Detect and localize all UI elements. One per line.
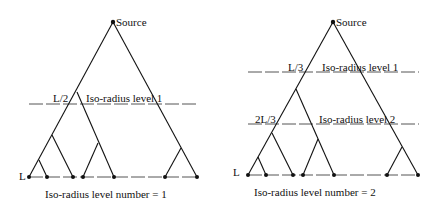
leaf-node bbox=[416, 173, 420, 177]
leaf-node bbox=[81, 175, 85, 179]
leaf-node bbox=[163, 175, 167, 179]
level-number-caption: Iso-radius level number = 2 bbox=[254, 186, 376, 198]
leaf-node bbox=[385, 173, 389, 177]
leaf-node bbox=[112, 175, 116, 179]
left-tree: Source L/2 Iso-radius level 1 L Iso-radi… bbox=[19, 16, 199, 200]
leaf-node bbox=[264, 173, 268, 177]
leaf-node bbox=[301, 173, 305, 177]
leaf-node bbox=[332, 173, 336, 177]
depth-label: L bbox=[19, 170, 26, 182]
leaf-node bbox=[45, 175, 49, 179]
level-fraction-label: L/2 bbox=[53, 92, 68, 104]
leaf-node bbox=[291, 173, 295, 177]
source-label: Source bbox=[336, 16, 367, 28]
depth-label: L bbox=[233, 166, 240, 178]
leaf-node bbox=[27, 175, 31, 179]
iso-radius-diagram: Source L/2 Iso-radius level 1 L Iso-radi… bbox=[0, 0, 434, 205]
source-label: Source bbox=[116, 16, 147, 28]
level-2-label: Iso-radius level 2 bbox=[319, 113, 395, 125]
right-tree: Source L/3 Iso-radius level 1 2L/3 Iso-r… bbox=[233, 16, 420, 198]
level-2-fraction-label: 2L/3 bbox=[255, 113, 276, 125]
level-number-caption: Iso-radius level number = 1 bbox=[45, 188, 167, 200]
leaf-node bbox=[195, 175, 199, 179]
level-label: Iso-radius level 1 bbox=[86, 92, 162, 104]
source-node bbox=[111, 20, 115, 24]
level-1-fraction-label: L/3 bbox=[288, 61, 304, 73]
level-1-label: Iso-radius level 1 bbox=[322, 61, 398, 73]
source-node bbox=[331, 20, 335, 24]
leaf-node bbox=[71, 175, 75, 179]
leaf-node bbox=[246, 173, 250, 177]
